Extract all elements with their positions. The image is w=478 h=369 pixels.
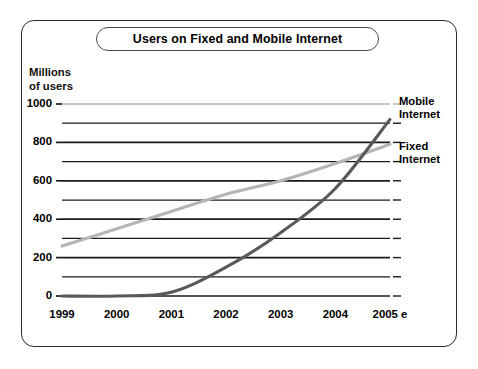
y-axis-tick-label: 800 bbox=[10, 135, 52, 147]
y-axis-tick-label: 600 bbox=[10, 174, 52, 186]
x-axis-tick-label: 2000 bbox=[89, 308, 145, 320]
chart-figure: Users on Fixed and Mobile Internet Milli… bbox=[0, 0, 478, 369]
legend-label-mobile-internet: Mobile Internet bbox=[399, 95, 440, 121]
x-axis-tick-label: 2003 bbox=[253, 308, 309, 320]
x-axis-tick-label: 1999 bbox=[34, 308, 90, 320]
x-axis-tick-label: 2001 bbox=[143, 308, 199, 320]
x-axis-tick-label: 2004 bbox=[307, 308, 363, 320]
y-tick-group bbox=[56, 104, 62, 296]
x-axis-tick-label: 2002 bbox=[198, 308, 254, 320]
y-axis-tick-label: 1000 bbox=[10, 97, 52, 109]
y-axis-tick-label: 400 bbox=[10, 212, 52, 224]
y-axis-tick-label: 0 bbox=[10, 289, 52, 301]
series-line-mobile-internet bbox=[62, 119, 390, 296]
y-axis-tick-label: 200 bbox=[10, 251, 52, 263]
legend-line-stub-group bbox=[393, 104, 401, 296]
series-line-fixed-internet bbox=[62, 144, 390, 246]
legend-label-fixed-internet: Fixed Internet bbox=[399, 140, 440, 166]
x-axis-tick-label: 2005 e bbox=[362, 308, 418, 320]
